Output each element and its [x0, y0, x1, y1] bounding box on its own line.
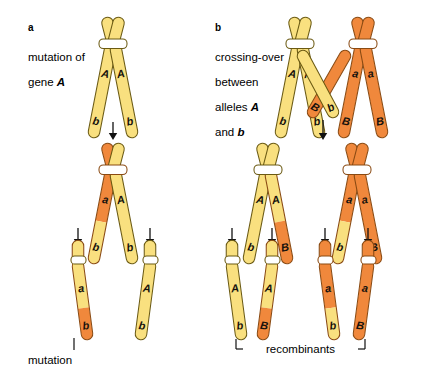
gamete-parental-aB: aB	[353, 240, 376, 340]
allele-label-upper: A	[263, 281, 273, 294]
allele-label-upper: A	[141, 281, 151, 294]
centromere	[343, 165, 371, 175]
panel-b-diagram: AbAbaBaBBbAbABabaBAbABabaBrecombinants	[205, 0, 440, 376]
panel-b-crossing-over: b crossing-over between alleles A and b …	[205, 0, 440, 376]
panel-a-mutation: a mutation of gene A AbAbabAbabAbmutatio…	[0, 0, 205, 376]
centromere	[225, 256, 240, 264]
recombined-chromosome-right: abaB	[331, 142, 382, 265]
arrow-mutation	[109, 122, 117, 140]
long-arm	[109, 169, 138, 264]
homolog-right: aBaB	[337, 16, 388, 139]
allele-label-lower: B	[259, 319, 269, 332]
chromosome-parent: AbAb	[87, 16, 138, 139]
recombinants-annotation: recombinants	[266, 343, 335, 355]
centromere	[318, 256, 333, 264]
mutation-annotation: mutation	[28, 354, 72, 366]
gamete-recombinant-AB: AB	[257, 240, 280, 340]
centromere	[286, 39, 314, 49]
allele-label-lower: B	[355, 319, 365, 332]
centromere	[143, 256, 158, 264]
allele-label-upper: A	[229, 282, 239, 295]
centromere	[99, 165, 127, 175]
chromosome-mutated: abAb	[87, 142, 138, 265]
daughter-chromosome-normal: Ab	[135, 240, 158, 340]
centromere	[349, 39, 377, 49]
centromere	[99, 39, 127, 49]
long-arm	[109, 43, 138, 138]
panel-a-diagram: AbAbabAbabAbmutation	[0, 0, 205, 376]
centromere	[254, 165, 282, 175]
centromere	[71, 256, 86, 264]
centromere	[361, 256, 376, 264]
centromere	[265, 256, 280, 264]
